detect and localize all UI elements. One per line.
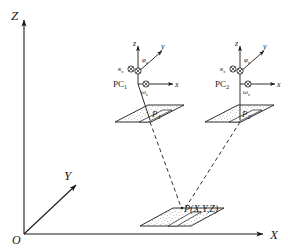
camera1-name-label: PC1 [113, 79, 127, 90]
camera1-kappa-rotation-symbol [128, 66, 134, 72]
camera2-kappa-label: κc [220, 65, 226, 74]
world-x-axis-label: X [269, 227, 279, 242]
ground-point-label: P(X,Y,Z) [183, 203, 219, 215]
world-y-axis-line [24, 185, 76, 234]
camera1-phi-rotation-symbol [135, 68, 141, 74]
figure-canvas: Z X Y O z x y [0, 0, 288, 249]
camera2-y-axis-label: y [262, 42, 267, 51]
camera2-z-axis-label: z [234, 39, 239, 48]
world-origin-label: O [12, 233, 21, 247]
camera2-name-label: PC2 [215, 79, 229, 90]
camera1-x-axis-label: x [174, 80, 179, 89]
projection-ray-camera2 [186, 122, 240, 207]
camera-station-2: z x y ωc φc [205, 39, 281, 122]
camera2-x-axis-label: x [276, 80, 281, 89]
camera1-y-axis-label: y [160, 42, 165, 51]
photogrammetry-diagram: Z X Y O z x y [0, 0, 288, 249]
camera1-kappa-label: κc [118, 65, 124, 74]
camera2-kappa-rotation-symbol [230, 66, 236, 72]
world-y-axis-label: Y [64, 168, 73, 183]
projection-ray-camera1 [150, 122, 181, 207]
world-z-axis-label: Z [11, 8, 19, 23]
camera2-phi-rotation-symbol [237, 68, 243, 74]
world-coordinate-frame: Z X Y O [11, 8, 279, 247]
camera2-omega-rotation-symbol [245, 81, 251, 87]
camera2-image-plane [205, 105, 274, 122]
projection-rays [150, 122, 240, 207]
camera-station-1: z x y ωc φc [113, 39, 184, 122]
ground-point-marker [181, 207, 184, 210]
camera2-omega-label: ωc [243, 88, 251, 97]
camera1-z-axis-label: z [132, 39, 137, 48]
camera1-phi-label: φc [142, 56, 149, 65]
camera1-omega-rotation-symbol [143, 81, 149, 87]
camera2-phi-label: φc [244, 56, 251, 65]
